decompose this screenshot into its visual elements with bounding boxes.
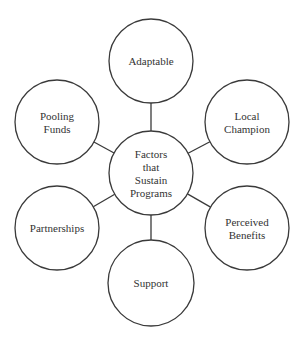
node-label: Programs bbox=[130, 187, 172, 199]
node-support: Support bbox=[108, 240, 194, 326]
node-label: Champion bbox=[224, 123, 270, 135]
node-label: Partnerships bbox=[30, 222, 84, 234]
connector-perceived-benefits bbox=[187, 194, 210, 207]
node-pooling-funds: PoolingFunds bbox=[15, 80, 99, 164]
node-center: FactorsthatSustainPrograms bbox=[109, 131, 193, 215]
node-label: Perceived bbox=[225, 216, 269, 228]
node-label: Support bbox=[134, 277, 169, 289]
node-adaptable: Adaptable bbox=[109, 19, 193, 103]
connector-local-champion bbox=[188, 142, 210, 154]
factor-nodes: FactorsthatSustainProgramsAdaptableLocal… bbox=[15, 19, 289, 326]
node-label: Benefits bbox=[229, 229, 266, 241]
node-perceived-benefits: PerceivedBenefits bbox=[205, 186, 289, 270]
node-label: Pooling bbox=[40, 110, 75, 122]
connector-pooling-funds bbox=[94, 142, 114, 153]
node-local-champion: LocalChampion bbox=[205, 80, 289, 164]
node-partnerships: Partnerships bbox=[15, 186, 99, 270]
node-label: Factors bbox=[135, 148, 167, 160]
sustainability-factors-diagram: FactorsthatSustainProgramsAdaptableLocal… bbox=[0, 0, 302, 339]
node-label: Adaptable bbox=[128, 55, 173, 67]
node-label: Sustain bbox=[135, 174, 168, 186]
node-label: that bbox=[143, 161, 160, 173]
connector-partnerships bbox=[93, 194, 114, 207]
node-label: Funds bbox=[44, 123, 71, 135]
node-label: Local bbox=[234, 110, 259, 122]
